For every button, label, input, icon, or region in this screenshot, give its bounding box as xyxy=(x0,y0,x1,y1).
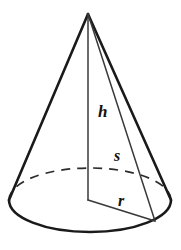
label-height: h xyxy=(98,102,107,121)
label-slant-height: s xyxy=(113,147,120,164)
label-radius: r xyxy=(118,192,125,209)
cone-diagram-svg: h s r xyxy=(0,0,181,250)
cone-figure: h s r xyxy=(0,0,181,250)
diagram-background xyxy=(0,0,181,250)
